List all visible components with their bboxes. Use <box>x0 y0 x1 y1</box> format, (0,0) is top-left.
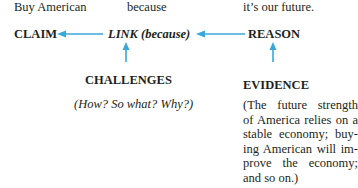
arrowhead-left-icon <box>57 31 66 38</box>
evidence-line: prove the economy; <box>243 156 358 171</box>
challenges-note: (How? So what? Why?) <box>74 97 193 111</box>
evidence-line: (The future strength <box>243 98 358 113</box>
evidence-line: and so on.) <box>243 171 358 186</box>
evidence-node: EVIDENCE <box>243 78 309 92</box>
challenges-node: CHALLENGES <box>85 73 172 87</box>
arrowhead-up-icon <box>270 42 277 50</box>
evidence-note: (The future strength of America relies o… <box>243 98 358 186</box>
evidence-line: ing American will im- <box>243 142 358 157</box>
arrowhead-left-icon <box>196 31 205 38</box>
evidence-line: stable economy; buy- <box>243 127 358 142</box>
evidence-line: of America relies on a <box>243 113 358 128</box>
arrowhead-up-icon <box>123 42 130 50</box>
